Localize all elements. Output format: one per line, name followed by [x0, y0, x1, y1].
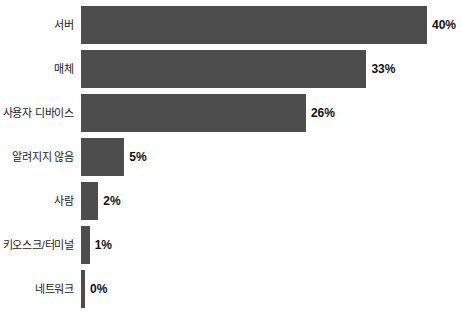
category-label: 알려지지 않음 — [0, 138, 74, 176]
bar-row: 사용자 디바이스26% — [0, 94, 462, 132]
category-label: 네트워크 — [0, 270, 74, 308]
bar-value-label: 26% — [306, 94, 335, 132]
bar-segment — [81, 226, 90, 264]
category-label: 사람 — [0, 182, 74, 220]
bar-value-label: 5% — [124, 138, 146, 176]
bar-row: 사람2% — [0, 182, 462, 220]
bar-segment — [81, 6, 427, 44]
bar-row: 네트워크0% — [0, 270, 462, 308]
plot-area: 서버40%매체33%사용자 디바이스26%알려지지 않음5%사람2%키오스크/터… — [0, 0, 462, 319]
category-label: 키오스크/터미널 — [0, 226, 74, 264]
bar-row: 서버40% — [0, 6, 462, 44]
category-label: 서버 — [0, 6, 74, 44]
bar-value-label: 40% — [427, 6, 456, 44]
bar-segment — [81, 94, 306, 132]
bar-value-label: 2% — [98, 182, 120, 220]
bar-value-label: 33% — [366, 50, 395, 88]
category-label: 사용자 디바이스 — [0, 94, 74, 132]
bar-row: 키오스크/터미널1% — [0, 226, 462, 264]
bar-value-label: 0% — [85, 270, 107, 308]
bar-segment — [81, 138, 124, 176]
bar-segment — [81, 50, 366, 88]
bar-row: 매체33% — [0, 50, 462, 88]
bar-segment — [81, 182, 98, 220]
bar-row: 알려지지 않음5% — [0, 138, 462, 176]
bar-chart: 서버40%매체33%사용자 디바이스26%알려지지 않음5%사람2%키오스크/터… — [0, 0, 462, 319]
category-label: 매체 — [0, 50, 74, 88]
bar-value-label: 1% — [90, 226, 112, 264]
